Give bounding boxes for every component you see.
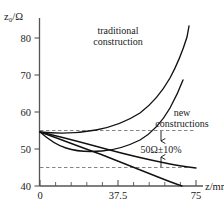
traditional-construction-label-line2: construction (93, 36, 142, 47)
tolerance-band-label: 50Ω±10% (140, 144, 181, 155)
y-tick-label-60: 60 (21, 107, 32, 118)
traditional-construction-label-line1: traditional (97, 25, 138, 36)
new-constructions-label-line2: constructions (155, 118, 208, 129)
chart-svg: 80 70 60 50 40 z₀/Ω 0 37.5 75 z/mm (0, 0, 224, 211)
y-tick-label-80: 80 (21, 33, 32, 44)
y-axis-title: z₀/Ω (4, 11, 23, 22)
new-constructions-label-line1: new (174, 107, 191, 118)
y-tick-label-70: 70 (21, 70, 32, 81)
x-tick-label-0: 0 (37, 190, 42, 201)
y-tick-label-50: 50 (21, 144, 32, 155)
y-tick-label-40: 40 (21, 181, 32, 192)
impedance-chart: 80 70 60 50 40 z₀/Ω 0 37.5 75 z/mm (0, 0, 224, 211)
x-tick-label-37-5: 37.5 (109, 190, 127, 201)
x-axis-title: z/mm (205, 181, 224, 192)
x-tick-label-75: 75 (191, 190, 202, 201)
